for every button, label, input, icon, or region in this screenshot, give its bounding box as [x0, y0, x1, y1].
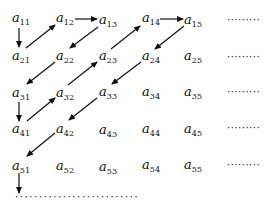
cell-a51: a51 — [12, 159, 30, 175]
cell-a24: a24 — [142, 49, 160, 65]
cell-a44: a44 — [142, 122, 160, 138]
cell-a35: a35 — [184, 85, 202, 101]
arrow-a22-a31 — [27, 62, 55, 84]
arrow-a24-a33 — [112, 62, 141, 84]
arrow-a32-a23 — [68, 62, 97, 85]
cell-a12: a12 — [56, 11, 74, 27]
cell-a25: a25 — [184, 49, 202, 65]
arrow-a21-a12 — [26, 25, 55, 48]
cell-a14: a14 — [142, 11, 160, 27]
arrow-a15-a24 — [155, 26, 184, 49]
zigzag-matrix-diagram: a11 a12 a13 a14 a15 ········· a21 a22 a2… — [0, 0, 280, 210]
cell-a32: a32 — [56, 86, 74, 102]
row-2-continuation-dots: ········· — [227, 52, 260, 62]
row-4-continuation-dots: ········· — [227, 123, 260, 133]
cell-a15: a15 — [184, 13, 202, 29]
row-5-continuation-dots: ········· — [227, 160, 260, 170]
cell-a41: a41 — [12, 122, 30, 138]
cell-a23: a23 — [99, 49, 117, 65]
cell-a22: a22 — [56, 49, 74, 65]
arrow-a13-a22 — [70, 27, 98, 48]
cell-a45: a45 — [184, 122, 202, 138]
cell-a54: a54 — [142, 158, 160, 174]
arrow-a23-a14 — [111, 26, 140, 49]
cell-a13: a13 — [99, 13, 117, 29]
row-3-continuation-dots: ········· — [227, 87, 260, 97]
cell-a11: a11 — [12, 11, 30, 27]
cell-a33: a33 — [99, 85, 117, 101]
cell-a42: a42 — [56, 122, 74, 138]
cell-a52: a52 — [56, 159, 74, 175]
cell-a21: a21 — [12, 49, 30, 65]
cell-a43: a43 — [99, 123, 117, 139]
arrow-a41-a32 — [27, 98, 55, 121]
cell-a53: a53 — [99, 160, 117, 176]
cell-a34: a34 — [142, 85, 160, 101]
bottom-continuation-dots: ·························· — [15, 192, 139, 202]
row-1-continuation-dots: ········· — [227, 15, 260, 25]
arrows-layer — [0, 0, 280, 210]
cell-a31: a31 — [12, 86, 30, 102]
arrow-a42-a51 — [27, 133, 55, 156]
cell-a55: a55 — [184, 158, 202, 174]
